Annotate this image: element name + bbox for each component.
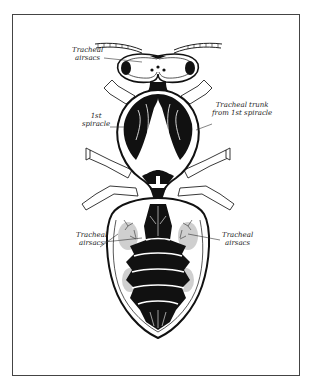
label-line: airsacs	[76, 240, 107, 248]
label-line: spiracle	[82, 121, 110, 129]
label-abdomen-airsacs-left: Tracheal airsacs	[76, 232, 107, 247]
insect-illustration	[0, 0, 316, 388]
label-line: airsacs	[222, 240, 253, 248]
abdomen	[107, 198, 209, 338]
label-line: from 1st spiracle	[212, 110, 272, 118]
antennae	[95, 43, 222, 53]
label-tracheal-trunk: Tracheal trunk from 1st spiracle	[212, 102, 272, 117]
label-abdomen-airsacs-right: Tracheal airsacs	[222, 232, 253, 247]
label-line: airsacs	[72, 55, 103, 63]
label-1st-spiracle: 1st spiracle	[82, 113, 110, 128]
head	[118, 54, 199, 82]
label-head-airsacs: Tracheal airsacs	[72, 47, 103, 62]
